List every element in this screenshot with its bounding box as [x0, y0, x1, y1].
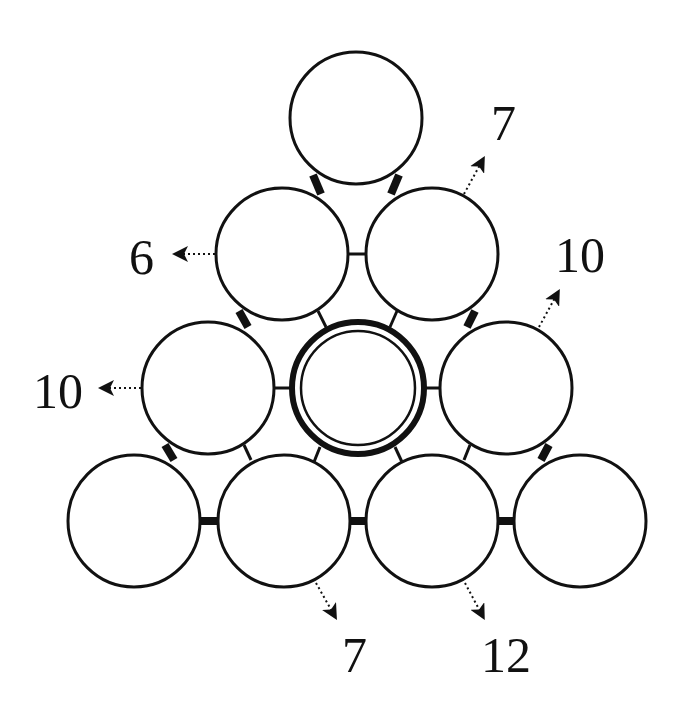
clue-left-row2: 6 [129, 232, 154, 282]
clue-right-row3: 10 [555, 230, 605, 280]
puzzle-diagram [0, 0, 688, 720]
circle-r4c2[interactable] [218, 455, 350, 587]
circle-r2c1[interactable] [216, 188, 348, 320]
circle-r4c3[interactable] [366, 455, 498, 587]
clue-right-row2: 7 [491, 98, 516, 148]
circle-r4c4[interactable] [514, 455, 646, 587]
clue-bottom-left: 7 [342, 630, 367, 680]
circle-r3c3[interactable] [440, 322, 572, 454]
circle-r3c1[interactable] [142, 322, 274, 454]
clue-left-row3: 10 [33, 366, 83, 416]
clue-bottom-right: 12 [481, 630, 531, 680]
circle-r3c2-highlighted[interactable] [292, 322, 424, 454]
circle-r2c2[interactable] [366, 188, 498, 320]
circle-r1c1[interactable] [290, 52, 422, 184]
circle-r4c1[interactable] [68, 455, 200, 587]
